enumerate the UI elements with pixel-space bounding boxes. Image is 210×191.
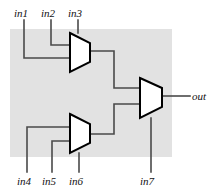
label-out: out xyxy=(192,90,207,102)
mux-diagram-canvas: in1 in2 in3 in4 in5 in6 in7 out xyxy=(0,0,210,191)
label-in6: in6 xyxy=(69,175,84,187)
label-in3: in3 xyxy=(68,7,83,19)
label-in5: in5 xyxy=(42,175,57,187)
mux-diagram-svg: in1 in2 in3 in4 in5 in6 in7 out xyxy=(0,0,210,191)
label-in2: in2 xyxy=(41,7,56,19)
label-in4: in4 xyxy=(17,175,32,187)
label-in1: in1 xyxy=(14,7,28,19)
label-in7: in7 xyxy=(140,175,155,187)
